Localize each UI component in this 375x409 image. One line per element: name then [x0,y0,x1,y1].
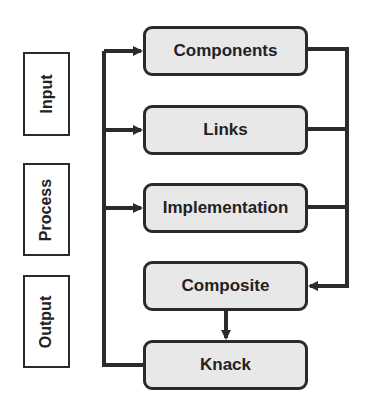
stage-label-process: Process [23,163,70,256]
stage-label-text: Process [38,178,56,240]
node-label: Links [203,120,247,140]
node-implementation: Implementation [143,183,308,233]
node-components: Components [143,26,308,76]
flow-diagram: Input Process Output Components Links Im… [0,0,375,409]
stage-label-input: Input [23,52,70,136]
node-label: Composite [182,276,270,296]
stage-label-text: Input [38,74,56,113]
node-composite: Composite [143,261,308,311]
stage-label-output: Output [23,275,70,368]
arrow-to-composite [308,49,347,286]
stage-label-text: Output [38,295,56,347]
node-knack: Knack [143,340,308,390]
node-label: Implementation [163,198,289,218]
node-label: Components [174,41,278,61]
node-links: Links [143,105,308,155]
node-label: Knack [200,355,251,375]
